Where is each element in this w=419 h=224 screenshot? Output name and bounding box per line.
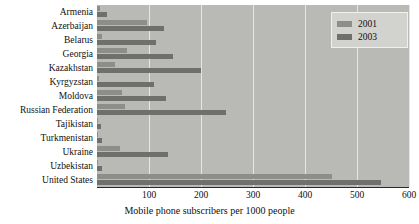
y-label-armenia: Armenia — [0, 7, 93, 17]
bar-2001-georgia — [97, 48, 127, 53]
y-label-turkmenistan: Turkmenistan — [0, 133, 93, 143]
bar-2003-tajikistan — [97, 124, 101, 129]
bar-2003-russian-federation — [97, 110, 226, 115]
legend-label-2003: 2003 — [358, 32, 377, 42]
x-tick-label-200: 200 — [194, 190, 208, 200]
legend-label-2001: 2001 — [358, 19, 377, 29]
chart-legend: 2001 2003 — [331, 12, 408, 48]
bar-2001-kazakhstan — [97, 62, 115, 67]
bar-2003-turkmenistan — [97, 138, 102, 143]
x-tick-label-100: 100 — [142, 190, 156, 200]
bar-2003-moldova — [97, 96, 166, 101]
bar-row — [97, 145, 409, 159]
y-axis-category-labels: ArmeniaAzerbaijanBelarusGeorgiaKazakhsta… — [0, 5, 93, 187]
x-tick-label-300: 300 — [246, 190, 260, 200]
bar-row — [97, 61, 409, 75]
bar-2003-united-states — [97, 180, 381, 185]
legend-item-2003: 2003 — [337, 30, 402, 43]
y-label-uzbekistan: Uzbekistan — [0, 161, 93, 171]
bar-2001-united-states — [97, 174, 332, 179]
figure-bottom-rule — [0, 223, 419, 224]
x-tick-label-600: 600 — [402, 190, 416, 200]
bar-2001-kyrgyzstan — [97, 76, 99, 81]
y-label-ukraine: Ukraine — [0, 147, 93, 157]
y-label-azerbaijan: Azerbaijan — [0, 21, 93, 31]
bar-2001-azerbaijan — [97, 20, 147, 25]
bar-2001-belarus — [97, 34, 102, 39]
bar-row — [97, 75, 409, 89]
y-label-kazakhstan: Kazakhstan — [0, 63, 93, 73]
y-label-united-states: United States — [0, 175, 93, 185]
bar-row — [97, 117, 409, 131]
bar-2003-georgia — [97, 54, 173, 59]
bar-2003-azerbaijan — [97, 26, 164, 31]
x-tick-label-500: 500 — [350, 190, 364, 200]
y-label-georgia: Georgia — [0, 49, 93, 59]
x-axis-line — [97, 187, 409, 188]
bar-2001-moldova — [97, 90, 122, 95]
y-label-kyrgyzstan: Kyrgyzstan — [0, 77, 93, 87]
y-label-moldova: Moldova — [0, 91, 93, 101]
bar-2003-ukraine — [97, 152, 168, 157]
legend-item-2001: 2001 — [337, 17, 402, 30]
y-label-tajikistan: Tajikistan — [0, 119, 93, 129]
bar-row — [97, 131, 409, 145]
bar-2001-turkmenistan — [97, 132, 98, 137]
bar-2001-russian-federation — [97, 104, 125, 109]
bar-row — [97, 103, 409, 117]
bar-2003-armenia — [97, 12, 107, 17]
bar-2003-uzbekistan — [97, 166, 102, 171]
bar-row — [97, 89, 409, 103]
bar-2003-kyrgyzstan — [97, 82, 154, 87]
bar-2003-belarus — [97, 40, 156, 45]
bar-2001-armenia — [97, 6, 100, 11]
y-label-belarus: Belarus — [0, 35, 93, 45]
bar-2003-kazakhstan — [97, 68, 201, 73]
x-tick-label-400: 400 — [298, 190, 312, 200]
y-label-russian-federation: Russian Federation — [0, 105, 93, 115]
mobile-phone-subscribers-bar-chart: ArmeniaAzerbaijanBelarusGeorgiaKazakhsta… — [0, 0, 419, 224]
legend-swatch-2001-icon — [337, 21, 352, 27]
gridline-600 — [409, 5, 410, 187]
bar-2001-uzbekistan — [97, 160, 98, 165]
bar-2001-tajikistan — [97, 118, 98, 123]
x-axis-title: Mobile phone subscribers per 1000 people — [0, 205, 419, 216]
legend-swatch-2003-icon — [337, 34, 352, 40]
bar-row — [97, 159, 409, 173]
bar-2001-ukraine — [97, 146, 120, 151]
bar-row — [97, 173, 409, 187]
bar-row — [97, 47, 409, 61]
